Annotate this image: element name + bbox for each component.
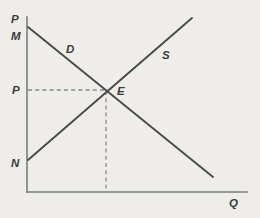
equilibrium-point-label: E xyxy=(117,86,125,98)
demand-curve xyxy=(28,27,213,177)
x-axis-label: Q xyxy=(229,198,238,210)
figure-canvas xyxy=(0,0,260,218)
y-axis-label: P xyxy=(11,14,19,26)
supply-demand-figure: P M D S P E N Q xyxy=(0,0,260,218)
equilibrium-price-label: P xyxy=(12,85,20,97)
supply-curve-label: S xyxy=(162,50,170,62)
supply-curve xyxy=(28,18,192,160)
demand-intercept-label: M xyxy=(11,31,21,43)
demand-curve-label: D xyxy=(66,44,75,56)
supply-intercept-label: N xyxy=(11,158,20,170)
